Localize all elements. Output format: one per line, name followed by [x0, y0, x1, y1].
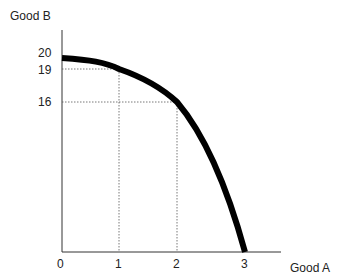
x-tick-1: 1	[115, 257, 122, 271]
x-tick-0: 0	[57, 257, 64, 271]
y-tick-16: 16	[38, 95, 52, 109]
x-axis-label: Good A	[290, 261, 330, 275]
ppf-chart: Good B Good A 20 19 16 0 1 2 3	[0, 0, 343, 280]
ppf-curve	[62, 58, 245, 252]
guide-lines	[62, 69, 177, 252]
y-axis-label: Good B	[10, 9, 51, 23]
x-tick-2: 2	[173, 257, 180, 271]
y-tick-19: 19	[38, 63, 52, 77]
y-tick-20: 20	[38, 46, 52, 60]
x-tick-3: 3	[241, 257, 248, 271]
